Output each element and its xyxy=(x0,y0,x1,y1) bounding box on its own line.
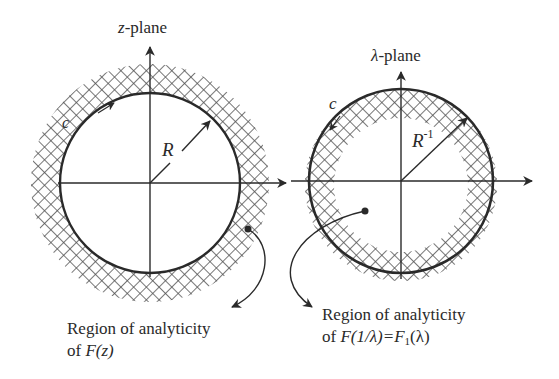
z-plane-radius-arrow-lower xyxy=(150,163,170,183)
lambda-plane-contour-label: c xyxy=(329,94,337,113)
lambda-plane-caption-line1: Region of analyticity xyxy=(322,305,466,324)
z-plane-radius-label: R xyxy=(161,139,174,160)
z-plane-caption-line2: of F(z) xyxy=(67,341,114,360)
z-plane-radius-arrow xyxy=(182,121,210,151)
z-plane-title: z-plane xyxy=(117,18,167,37)
z-plane-pointer-dot xyxy=(245,226,252,233)
lambda-plane-title: λ-plane xyxy=(370,46,421,65)
analyticity-diagram: z-plane R c Region of analyticity of F(z… xyxy=(0,0,559,379)
z-plane-diagram: z-plane R c Region of analyticity of F(z… xyxy=(31,18,286,360)
lambda-plane-pointer-dot xyxy=(362,208,369,215)
z-plane-caption-line1: Region of analyticity xyxy=(67,319,211,338)
lambda-plane-caption-line2: of F(1/λ)=F1(λ) xyxy=(322,327,430,347)
lambda-plane-radius-label: R-1 xyxy=(411,127,434,151)
lambda-plane-radius-arrow xyxy=(401,118,467,181)
lambda-plane-diagram: λ-plane R-1 c Region of analyticity of F… xyxy=(290,46,532,347)
z-plane-contour-label: c xyxy=(62,114,69,131)
